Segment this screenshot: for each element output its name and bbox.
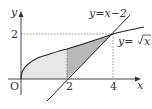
y-axis-label: y	[10, 6, 18, 19]
y-axis-arrow-icon	[19, 11, 24, 17]
x-tick-4: 4	[110, 80, 117, 93]
origin-label: O	[10, 80, 19, 93]
svg-text:y=: y=	[117, 35, 133, 48]
x-axis-label: x	[137, 79, 144, 92]
svg-text:x: x	[144, 35, 151, 48]
x-tick-2: 2	[66, 80, 73, 93]
line-label: y=x−2	[88, 7, 127, 20]
sqrt-label: y= x	[117, 35, 151, 48]
area-diagram: y x O 2 4 2 y=x−2 y= x	[0, 0, 152, 109]
y-tick-2: 2	[11, 28, 18, 41]
